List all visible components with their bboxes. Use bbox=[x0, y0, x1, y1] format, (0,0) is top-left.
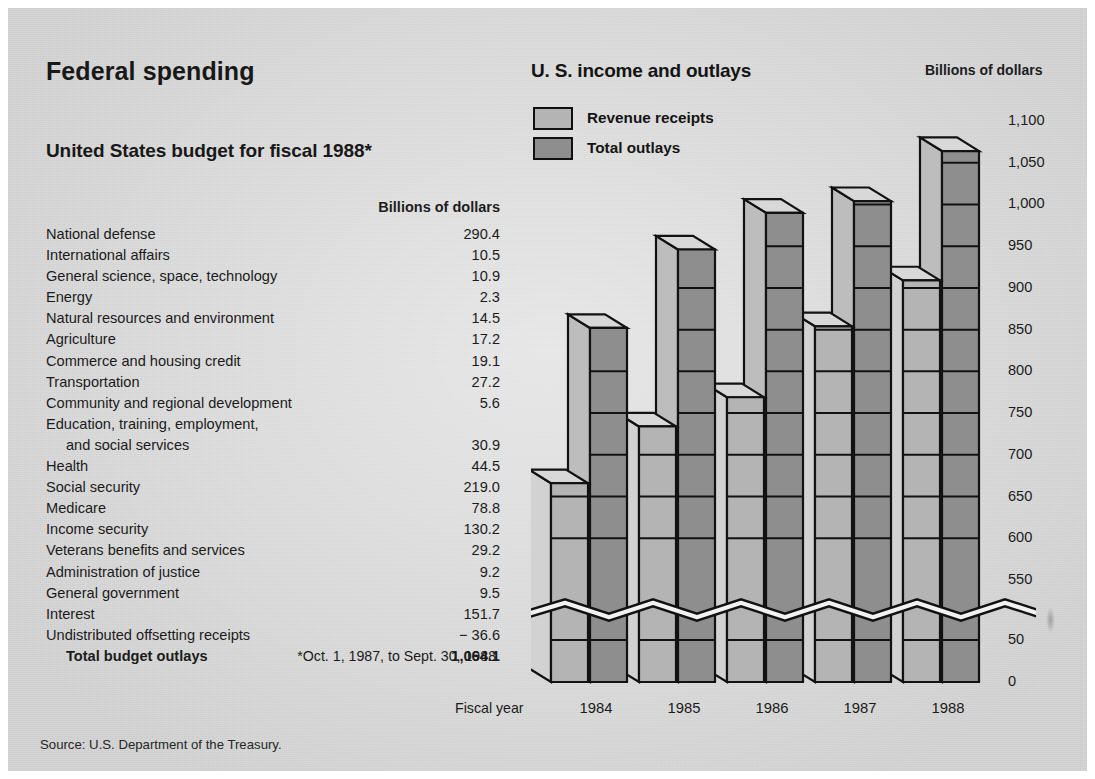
chart-unit-label: Billions of dollars bbox=[925, 62, 1042, 78]
budget-row-label: National defense bbox=[46, 226, 414, 242]
bar-outlays-1988-front-face bbox=[942, 151, 979, 682]
budget-row-value: 130.2 bbox=[414, 521, 500, 537]
budget-row-value: 10.9 bbox=[414, 268, 500, 284]
budget-row-value: 2.3 bbox=[414, 289, 500, 305]
bar-revenue-1984-front-face bbox=[551, 483, 588, 682]
table-row: Natural resources and environment14.5 bbox=[46, 310, 500, 331]
budget-row-value: 10.5 bbox=[414, 247, 500, 263]
income-outlays-bar-chart bbox=[531, 95, 1036, 695]
budget-row-label: Administration of justice bbox=[46, 564, 414, 580]
x-axis-tick-1988: 1988 bbox=[918, 700, 978, 716]
table-row: Interest151.7 bbox=[46, 606, 500, 627]
table-row: Health44.5 bbox=[46, 458, 500, 479]
chart-x-axis: Fiscal year19841985198619871988 bbox=[455, 700, 1035, 724]
budget-row-label: Energy bbox=[46, 289, 414, 305]
budget-table-footnote: *Oct. 1, 1987, to Sept. 30, 1988. bbox=[46, 648, 500, 664]
chart-y-axis: 1,1001,0501,0009509008508007507006506005… bbox=[1008, 95, 1078, 695]
budget-row-value: 19.1 bbox=[414, 353, 500, 369]
budget-row-value: − 36.6 bbox=[414, 627, 500, 643]
table-row: Veterans benefits and services29.2 bbox=[46, 542, 500, 563]
budget-row-label: Undistributed offsetting receipts bbox=[46, 627, 414, 643]
chart-canvas bbox=[531, 95, 1036, 695]
bar-revenue-1984-side-face bbox=[531, 470, 551, 682]
table-row: Education, training, employment, bbox=[46, 416, 500, 437]
budget-row-label: General government bbox=[46, 585, 414, 601]
budget-row-value: 290.4 bbox=[414, 226, 500, 242]
budget-row-value: 5.6 bbox=[414, 395, 500, 411]
budget-row-label: Interest bbox=[46, 606, 414, 622]
table-row: Undistributed offsetting receipts− 36.6 bbox=[46, 627, 500, 648]
x-axis-title: Fiscal year bbox=[455, 700, 524, 716]
budget-row-label: Agriculture bbox=[46, 331, 414, 347]
y-axis-tick-850: 850 bbox=[1008, 321, 1032, 337]
budget-row-value: 17.2 bbox=[414, 331, 500, 347]
x-axis-tick-1985: 1985 bbox=[654, 700, 714, 716]
budget-row-value: 44.5 bbox=[414, 458, 500, 474]
table-row: Social security219.0 bbox=[46, 479, 500, 500]
budget-row-value: 219.0 bbox=[414, 479, 500, 495]
scan-smudge bbox=[1046, 607, 1055, 633]
x-axis-tick-1987: 1987 bbox=[830, 700, 890, 716]
table-row: General government9.5 bbox=[46, 585, 500, 606]
scanned-page: Federal spending United States budget fo… bbox=[0, 0, 1095, 779]
bar-revenue-1985-front-face bbox=[639, 426, 676, 682]
table-row: Agriculture17.2 bbox=[46, 331, 500, 352]
budget-row-label: Transportation bbox=[46, 374, 414, 390]
x-axis-tick-1984: 1984 bbox=[566, 700, 626, 716]
x-axis-tick-1986: 1986 bbox=[742, 700, 802, 716]
page-title: Federal spending bbox=[46, 57, 255, 86]
budget-row-value: 27.2 bbox=[414, 374, 500, 390]
y-axis-tick-900: 900 bbox=[1008, 279, 1032, 295]
budget-row-value: 29.2 bbox=[414, 542, 500, 558]
y-axis-tick-650: 650 bbox=[1008, 488, 1032, 504]
budget-row-value: 30.9 bbox=[414, 437, 500, 453]
budget-row-value: 9.5 bbox=[414, 585, 500, 601]
budget-table-title: United States budget for fiscal 1988* bbox=[46, 140, 372, 162]
budget-row-label: Social security bbox=[46, 479, 414, 495]
table-row: International affairs10.5 bbox=[46, 247, 500, 268]
budget-row-value: 9.2 bbox=[414, 564, 500, 580]
bar-outlays-1984-front-face bbox=[590, 328, 627, 682]
chart-title: U. S. income and outlays bbox=[531, 60, 751, 82]
table-row: Administration of justice9.2 bbox=[46, 564, 500, 585]
budget-row-label: Natural resources and environment bbox=[46, 310, 414, 326]
budget-row-label: Income security bbox=[46, 521, 414, 537]
budget-row-label: and social services bbox=[46, 437, 414, 453]
budget-row-value: 151.7 bbox=[414, 606, 500, 622]
source-note: Source: U.S. Department of the Treasury. bbox=[40, 737, 282, 752]
table-row: and social services30.9 bbox=[46, 437, 500, 458]
budget-row-value: 14.5 bbox=[414, 310, 500, 326]
budget-row-label: General science, space, technology bbox=[46, 268, 414, 284]
table-row: Medicare78.8 bbox=[46, 500, 500, 521]
bar-revenue-1987-front-face bbox=[815, 326, 852, 682]
table-row: Income security130.2 bbox=[46, 521, 500, 542]
table-row: General science, space, technology10.9 bbox=[46, 268, 500, 289]
y-axis-tick-1100: 1,100 bbox=[1008, 112, 1045, 128]
budget-row-label: Education, training, employment, bbox=[46, 416, 414, 432]
table-row: Community and regional development5.6 bbox=[46, 395, 500, 416]
budget-row-label: Medicare bbox=[46, 500, 414, 516]
y-axis-tick-700: 700 bbox=[1008, 446, 1032, 462]
table-row: Commerce and housing credit19.1 bbox=[46, 353, 500, 374]
y-axis-tick-750: 750 bbox=[1008, 404, 1032, 420]
y-axis-tick-0: 0 bbox=[1008, 673, 1016, 689]
budget-row-label: Veterans benefits and services bbox=[46, 542, 414, 558]
budget-row-label: International affairs bbox=[46, 247, 414, 263]
budget-row-value: 78.8 bbox=[414, 500, 500, 516]
budget-row-label: Commerce and housing credit bbox=[46, 353, 414, 369]
y-axis-tick-50: 50 bbox=[1008, 631, 1024, 647]
table-row: Energy2.3 bbox=[46, 289, 500, 310]
y-axis-tick-950: 950 bbox=[1008, 237, 1032, 253]
table-row: Transportation27.2 bbox=[46, 374, 500, 395]
budget-row-label: Community and regional development bbox=[46, 395, 414, 411]
y-axis-tick-1000: 1,000 bbox=[1008, 195, 1045, 211]
y-axis-tick-600: 600 bbox=[1008, 529, 1032, 545]
table-row: National defense290.4 bbox=[46, 226, 500, 247]
y-axis-tick-550: 550 bbox=[1008, 571, 1032, 587]
y-axis-tick-1050: 1,050 bbox=[1008, 154, 1045, 170]
bar-revenue-1988-front-face bbox=[903, 280, 940, 682]
y-axis-tick-800: 800 bbox=[1008, 362, 1032, 378]
budget-row-label: Health bbox=[46, 458, 414, 474]
budget-table-unit-header: Billions of dollars bbox=[342, 199, 500, 215]
budget-table: National defense290.4International affai… bbox=[46, 226, 500, 669]
